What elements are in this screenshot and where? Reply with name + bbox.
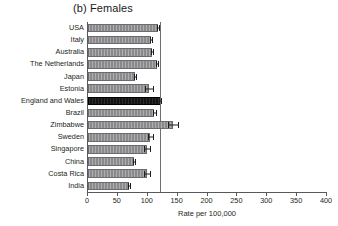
bar-row: Costa Rica bbox=[88, 168, 327, 180]
plot-area: USAItalyAustraliaThe NetherlandsJapanEst… bbox=[87, 22, 326, 192]
bar-track bbox=[88, 84, 327, 93]
bar bbox=[88, 48, 152, 57]
error-bar bbox=[168, 125, 178, 126]
error-bar-cap bbox=[133, 159, 134, 165]
bar-track bbox=[88, 36, 327, 45]
bar bbox=[88, 145, 147, 154]
x-axis-tick-label: 0 bbox=[85, 197, 89, 204]
bar-row: Zimbabwe bbox=[88, 119, 327, 131]
bar-track bbox=[88, 24, 327, 33]
category-label: Zimbabwe bbox=[50, 122, 84, 129]
bar-track bbox=[88, 133, 327, 142]
bar bbox=[88, 109, 154, 118]
bar bbox=[88, 182, 129, 191]
category-label: USA bbox=[69, 24, 84, 31]
x-axis-tick-label: 100 bbox=[141, 197, 153, 204]
error-bar-cap bbox=[130, 183, 131, 189]
error-bar-cap bbox=[152, 37, 153, 43]
chart-figure: (b) Females USAItalyAustraliaThe Netherl… bbox=[0, 0, 338, 226]
category-label: Sweden bbox=[58, 134, 84, 141]
error-bar-cap bbox=[153, 134, 154, 140]
error-bar-cap bbox=[168, 122, 169, 128]
error-bar-cap bbox=[145, 86, 146, 92]
error-bar-cap bbox=[159, 25, 160, 31]
error-bar-cap bbox=[159, 98, 160, 104]
category-label: Estonia bbox=[60, 85, 84, 92]
category-label: Singapore bbox=[51, 146, 84, 153]
error-bar-cap bbox=[144, 171, 145, 177]
bar-row: USA bbox=[88, 22, 327, 34]
error-bar-cap bbox=[156, 61, 157, 67]
error-bar-cap bbox=[134, 74, 135, 80]
bar-track bbox=[88, 72, 327, 81]
bar bbox=[88, 24, 158, 33]
bar-track bbox=[88, 157, 327, 166]
error-bar-cap bbox=[161, 98, 162, 104]
bar-row: Italy bbox=[88, 34, 327, 46]
bar-row: England and Wales bbox=[88, 95, 327, 107]
bar bbox=[88, 97, 160, 106]
bar-track bbox=[88, 145, 327, 154]
bar bbox=[88, 60, 157, 69]
bar-row: Brazil bbox=[88, 107, 327, 119]
bar-track bbox=[88, 60, 327, 69]
error-bar-cap bbox=[153, 86, 154, 92]
category-label: The Netherlands bbox=[30, 61, 84, 68]
error-bar-cap bbox=[153, 110, 154, 116]
bar bbox=[88, 133, 150, 142]
bar-row: Australia bbox=[88, 46, 327, 58]
bar bbox=[88, 121, 173, 130]
x-axis-label: Rate per 100,000 bbox=[178, 209, 236, 218]
bar-track bbox=[88, 48, 327, 57]
error-bar-cap bbox=[150, 146, 151, 152]
category-label: Japan bbox=[64, 73, 84, 80]
error-bar-cap bbox=[150, 37, 151, 43]
category-label: Italy bbox=[71, 37, 84, 44]
bar-row: Japan bbox=[88, 71, 327, 83]
error-bar-cap bbox=[151, 49, 152, 55]
category-label: India bbox=[68, 182, 84, 189]
error-bar-cap bbox=[157, 25, 158, 31]
error-bar-cap bbox=[148, 134, 149, 140]
bar bbox=[88, 72, 135, 81]
x-axis-tick-label: 250 bbox=[230, 197, 242, 204]
error-bar-cap bbox=[150, 171, 151, 177]
x-axis-tick-label: 50 bbox=[113, 197, 121, 204]
error-bar-cap bbox=[158, 61, 159, 67]
category-label: England and Wales bbox=[21, 97, 84, 104]
bar-row: China bbox=[88, 156, 327, 168]
bar bbox=[88, 169, 147, 178]
error-bar-cap bbox=[178, 122, 179, 128]
bar-row: Estonia bbox=[88, 83, 327, 95]
bar bbox=[88, 36, 151, 45]
x-axis-tick-label: 300 bbox=[260, 197, 272, 204]
error-bar-cap bbox=[135, 159, 136, 165]
error-bar bbox=[145, 88, 152, 89]
error-bar-cap bbox=[128, 183, 129, 189]
bar bbox=[88, 84, 149, 93]
bar-row: India bbox=[88, 180, 327, 192]
x-axis-tick-label: 150 bbox=[171, 197, 183, 204]
error-bar-cap bbox=[156, 110, 157, 116]
chart-title: (b) Females bbox=[73, 2, 133, 14]
error-bar-cap bbox=[153, 49, 154, 55]
category-label: China bbox=[65, 158, 84, 165]
bar-row: The Netherlands bbox=[88, 58, 327, 70]
category-label: Australia bbox=[56, 49, 84, 56]
error-bar-cap bbox=[144, 146, 145, 152]
x-axis-tick-label: 200 bbox=[200, 197, 212, 204]
bar-track bbox=[88, 121, 327, 130]
x-axis-tick-label: 400 bbox=[320, 197, 332, 204]
error-bar-cap bbox=[136, 74, 137, 80]
category-label: Brazil bbox=[66, 109, 84, 116]
bar-track bbox=[88, 97, 327, 106]
bar-track bbox=[88, 182, 327, 191]
bar-track bbox=[88, 169, 327, 178]
bar bbox=[88, 157, 134, 166]
category-label: Costa Rica bbox=[48, 170, 84, 177]
x-axis-tick-label: 350 bbox=[290, 197, 302, 204]
bar-row: Sweden bbox=[88, 131, 327, 143]
bar-track bbox=[88, 109, 327, 118]
bar-row: Singapore bbox=[88, 143, 327, 155]
